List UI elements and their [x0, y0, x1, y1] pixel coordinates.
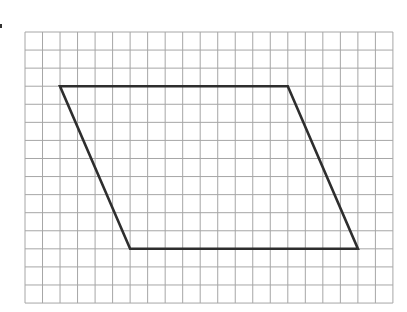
square-grid — [25, 32, 393, 303]
grid-figure — [0, 0, 407, 312]
parallelogram-shape — [60, 86, 358, 249]
